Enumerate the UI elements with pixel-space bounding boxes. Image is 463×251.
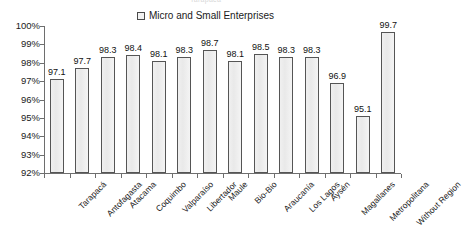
bar-slot: 97.1 [44, 26, 70, 173]
y-axis-tick-label: 96% [2, 95, 40, 105]
y-axis-tick-label: 99% [2, 39, 40, 49]
bar-value-label: 96.9 [328, 72, 346, 81]
bar-value-label: 97.1 [48, 68, 66, 77]
chart-title: Tarapacá [0, 0, 411, 4]
bar-slot: 98.3 [299, 26, 325, 173]
y-axis-tick-label: 94% [2, 131, 40, 141]
y-axis: 100%99%98%97%96%95%94%93%92% [0, 0, 44, 251]
legend-item-label: Micro and Small Enterprises [149, 11, 274, 21]
x-axis-tick-mark [274, 174, 275, 178]
bar-value-label: 98.3 [99, 46, 117, 55]
bar-slot: 99.7 [376, 26, 402, 173]
x-axis-tick-mark [350, 174, 351, 178]
bar[interactable] [126, 55, 140, 173]
bar-slot: 97.7 [70, 26, 96, 173]
bar-slot: 98.1 [223, 26, 249, 173]
bar-slot: 98.4 [121, 26, 147, 173]
y-axis-tick-label: 93% [2, 150, 40, 160]
x-axis-tick-mark [325, 174, 326, 178]
x-axis-tick-mark [401, 174, 402, 178]
bar-value-label: 98.5 [252, 43, 270, 52]
bar[interactable] [356, 116, 370, 173]
bar[interactable] [279, 57, 293, 173]
bar-value-label: 98.3 [175, 46, 193, 55]
chart-legend: Micro and Small Enterprises [0, 11, 411, 21]
x-axis-tick-mark [172, 174, 173, 178]
x-axis-category-label: Bio-Bio [253, 180, 279, 206]
x-axis-tick-mark [223, 174, 224, 178]
bar-slot: 98.3 [274, 26, 300, 173]
x-axis-tick-mark [95, 174, 96, 178]
bar-slot: 96.9 [325, 26, 351, 173]
bar[interactable] [381, 32, 395, 173]
bar-value-label: 95.1 [354, 105, 372, 114]
bar[interactable] [101, 57, 115, 173]
x-axis-tick-mark [121, 174, 122, 178]
bar-slot: 98.1 [146, 26, 172, 173]
y-axis-tick-label: 95% [2, 113, 40, 123]
bar[interactable] [177, 57, 191, 173]
bar-value-label: 98.4 [124, 44, 142, 53]
bar-value-label: 98.3 [277, 46, 295, 55]
bar-value-label: 97.7 [73, 57, 91, 66]
bar-value-label: 98.1 [226, 50, 244, 59]
bar[interactable] [75, 68, 89, 173]
x-axis-tick-mark [146, 174, 147, 178]
y-axis-tick-label: 92% [2, 168, 40, 178]
bar[interactable] [203, 50, 217, 173]
x-axis-tick-mark [70, 174, 71, 178]
bar[interactable] [254, 54, 268, 173]
bar[interactable] [330, 83, 344, 173]
bar-slot: 95.1 [350, 26, 376, 173]
bar[interactable] [228, 61, 242, 173]
y-axis-tick-label: 100% [2, 21, 40, 31]
x-axis-tick-mark [248, 174, 249, 178]
bar-slot: 98.3 [95, 26, 121, 173]
x-axis-category-label: Tarapacá [77, 180, 108, 211]
bar-value-label: 98.1 [150, 50, 168, 59]
y-axis-tick-label: 98% [2, 58, 40, 68]
plot-area: 97.197.798.398.498.198.398.798.198.598.3… [44, 26, 401, 173]
bar-value-label: 98.7 [201, 39, 219, 48]
bar[interactable] [305, 57, 319, 173]
x-axis-tick-mark [44, 174, 45, 178]
x-axis-tick-mark [197, 174, 198, 178]
bar[interactable] [152, 61, 166, 173]
bar-slot: 98.7 [197, 26, 223, 173]
bar-slot: 98.3 [172, 26, 198, 173]
x-axis-tick-mark [299, 174, 300, 178]
x-axis-tick-mark [376, 174, 377, 178]
y-axis-tick-label: 97% [2, 76, 40, 86]
bar-value-label: 98.3 [303, 46, 321, 55]
bar-slot: 98.5 [248, 26, 274, 173]
bar[interactable] [50, 79, 64, 173]
x-axis: TarapacáAntofagastaAtacamaCoquimboValpar… [44, 174, 401, 251]
bar-value-label: 99.7 [379, 21, 397, 30]
legend-swatch-icon [137, 12, 145, 20]
